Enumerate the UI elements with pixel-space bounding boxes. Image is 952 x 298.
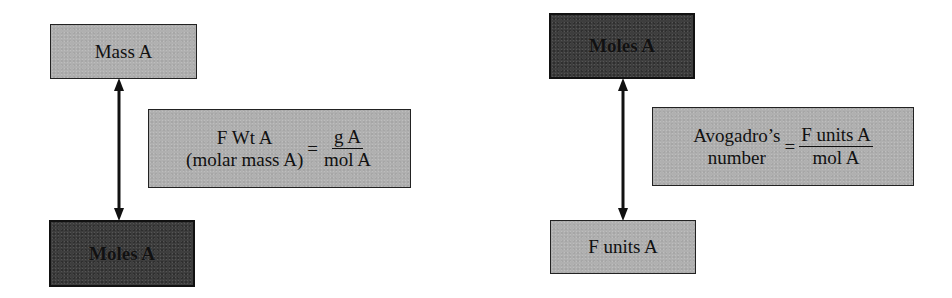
fraction-numerator: F units A xyxy=(799,124,873,147)
formula-lhs-line2: number xyxy=(693,147,780,169)
formula-lhs-line1: Avogadro’s xyxy=(693,125,780,147)
molar-mass-formula-box: F Wt A (molar mass A) = g A mol A xyxy=(148,109,411,188)
avogadro-formula-box: Avogadro’s number = F units A mol A xyxy=(652,107,914,186)
equals-sign: = xyxy=(307,138,318,160)
fraction-denominator: mol A xyxy=(810,147,861,169)
formula-lhs: Avogadro’s number xyxy=(693,125,780,169)
f-units-a-label: F units A xyxy=(588,236,658,258)
f-units-a-box: F units A xyxy=(550,220,696,274)
double-arrow-icon xyxy=(112,78,126,221)
moles-a-box: Moles A xyxy=(49,220,195,287)
moles-a-label: Moles A xyxy=(589,35,655,57)
formula-fraction: F units A mol A xyxy=(799,124,873,169)
mass-a-label: Mass A xyxy=(95,41,153,63)
equals-sign: = xyxy=(784,136,795,158)
double-arrow-icon xyxy=(616,78,630,221)
formula-fraction: g A mol A xyxy=(322,126,373,171)
fraction-denominator: mol A xyxy=(322,149,373,171)
mass-a-box: Mass A xyxy=(50,24,197,79)
formula-lhs-line2: (molar mass A) xyxy=(186,149,303,171)
moles-a-box: Moles A xyxy=(549,13,695,79)
formula-lhs-line1: F Wt A xyxy=(186,127,303,149)
fraction-numerator: g A xyxy=(332,126,363,149)
formula-lhs: F Wt A (molar mass A) xyxy=(186,127,303,171)
moles-a-label: Moles A xyxy=(89,243,155,265)
